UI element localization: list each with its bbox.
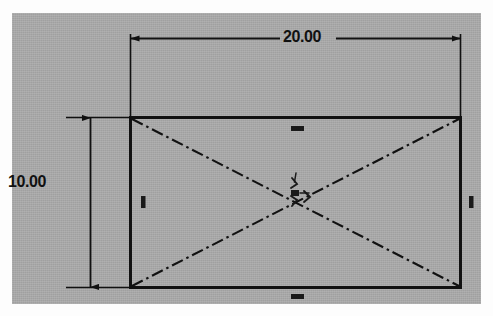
width-extension-lines — [131, 34, 461, 118]
relation-symbol-horizontal-top[interactable] — [291, 126, 304, 131]
relation-symbol-vertical-left[interactable] — [141, 196, 146, 208]
relation-symbol-vertical-right[interactable] — [469, 196, 474, 208]
dimension-value-width[interactable]: 20.00 — [283, 29, 321, 45]
relation-symbol-horizontal-bottom[interactable] — [291, 294, 304, 299]
sketch-vector-layer — [0, 0, 493, 316]
dimension-value-height[interactable]: 10.00 — [8, 174, 46, 190]
height-extension-lines — [66, 118, 131, 288]
screenshot-stage: 20.00 10.00 — [0, 0, 493, 316]
